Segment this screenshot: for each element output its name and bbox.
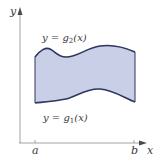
diagram-canvas: y x a b y = g2(x) y = g1(x): [0, 0, 162, 160]
upper-curve-label: y = g2(x): [41, 32, 87, 45]
region-diagram: y x a b y = g2(x) y = g1(x): [0, 0, 162, 160]
x-axis-arrow-icon: [139, 141, 147, 146]
x-axis-label: x: [147, 144, 154, 157]
y-axis-arrow-icon: [18, 7, 23, 15]
y-axis-label: y: [9, 5, 17, 18]
lower-curve-label: y = g1(x): [42, 112, 88, 125]
tick-label-b: b: [131, 144, 138, 157]
tick-label-a: a: [32, 144, 39, 157]
